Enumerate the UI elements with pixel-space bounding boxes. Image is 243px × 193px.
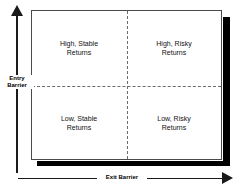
quadrant-high-stable: High, Stable Returns xyxy=(32,11,126,85)
x-axis-label: Exit Barrier xyxy=(97,173,147,181)
quadrant-low-risky: Low, Risky Returns xyxy=(127,86,221,160)
matrix-shadow-bottom xyxy=(37,161,230,166)
quadrant-high-risky: High, Risky Returns xyxy=(127,11,221,85)
arrow-up-icon xyxy=(11,5,23,16)
matrix-box: High, Stable Returns High, Risky Returns… xyxy=(31,10,222,160)
entry-exit-barrier-matrix-figure: High, Stable Returns High, Risky Returns… xyxy=(0,0,243,193)
matrix-shadow-right xyxy=(223,17,230,166)
arrow-right-icon xyxy=(222,172,233,184)
quadrant-high-risky-label: High, Risky Returns xyxy=(156,39,191,57)
quadrant-low-stable: Low, Stable Returns xyxy=(32,86,126,160)
quadrant-low-stable-label: Low, Stable Returns xyxy=(61,114,97,132)
y-axis-line xyxy=(16,14,18,173)
y-axis-label: Entry Barrier xyxy=(0,75,34,89)
quadrant-low-risky-label: Low, Risky Returns xyxy=(157,114,190,132)
quadrant-high-stable-label: High, Stable Returns xyxy=(60,39,98,57)
